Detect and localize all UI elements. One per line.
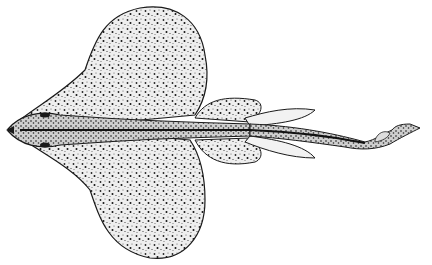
illustration-canvas [0,0,432,265]
right-eye [40,143,50,148]
upper-pectoral-fin [10,7,207,128]
lower-pectoral-fin [10,130,205,258]
fish-illustration [0,0,432,265]
left-eye [40,113,50,118]
